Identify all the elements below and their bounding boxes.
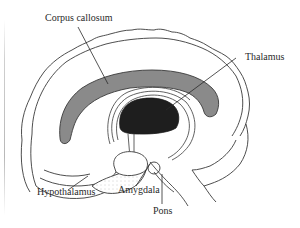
label-corpus-callosum: Corpus callosum: [45, 13, 113, 23]
label-amygdala: Amygdala: [118, 185, 160, 195]
label-pons: Pons: [153, 206, 172, 216]
brain-diagram: Corpus callosum Thalamus Hypothalamus Am…: [0, 0, 300, 228]
label-thalamus: Thalamus: [245, 52, 284, 62]
label-hypothalamus: Hypothalamus: [37, 187, 95, 197]
thalamus-shape: [120, 98, 179, 134]
hypothalamus-region: [114, 152, 160, 176]
